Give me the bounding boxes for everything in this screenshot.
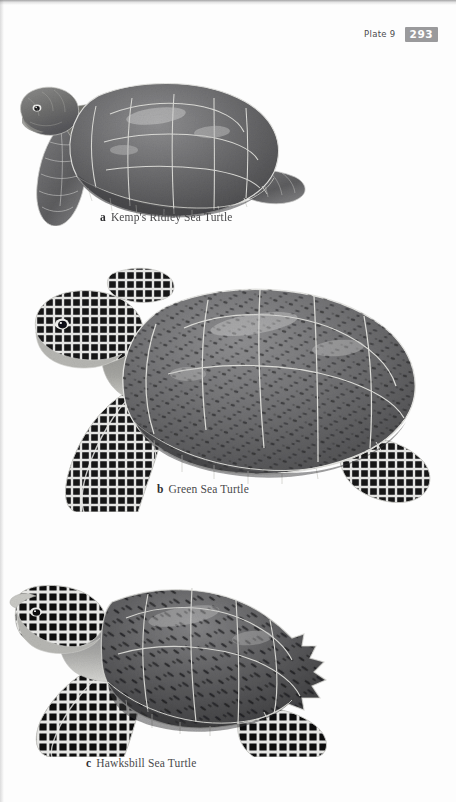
green-sea-turtle-illustration	[35, 268, 430, 512]
running-head: Plate 9 293	[364, 27, 438, 42]
hawksbill-illustration	[10, 585, 327, 757]
caption-key-a: a	[100, 211, 106, 223]
figure-green-sea-turtle	[18, 262, 442, 512]
caption-text-b: Green Sea Turtle	[169, 483, 249, 495]
scan-edge-left	[0, 0, 4, 802]
caption-hawksbill-sea-turtle: cHawksbill Sea Turtle	[86, 757, 196, 769]
plate-label: Plate 9	[364, 29, 395, 39]
plate-page: Plate 9 293	[0, 0, 456, 802]
figure-kemps-ridley-sea-turtle	[6, 46, 318, 226]
caption-kemps-ridley: aKemp's Ridley Sea Turtle	[100, 211, 233, 223]
caption-text-a: Kemp's Ridley Sea Turtle	[111, 211, 233, 223]
caption-green-sea-turtle: bGreen Sea Turtle	[157, 483, 249, 495]
caption-text-c: Hawksbill Sea Turtle	[96, 757, 196, 769]
page-number-badge: 293	[405, 27, 438, 42]
caption-key-c: c	[86, 757, 91, 769]
scan-edge-top	[0, 0, 456, 5]
caption-key-b: b	[157, 483, 164, 495]
kemps-ridley-illustration	[20, 83, 305, 226]
figure-hawksbill-sea-turtle	[8, 572, 360, 757]
